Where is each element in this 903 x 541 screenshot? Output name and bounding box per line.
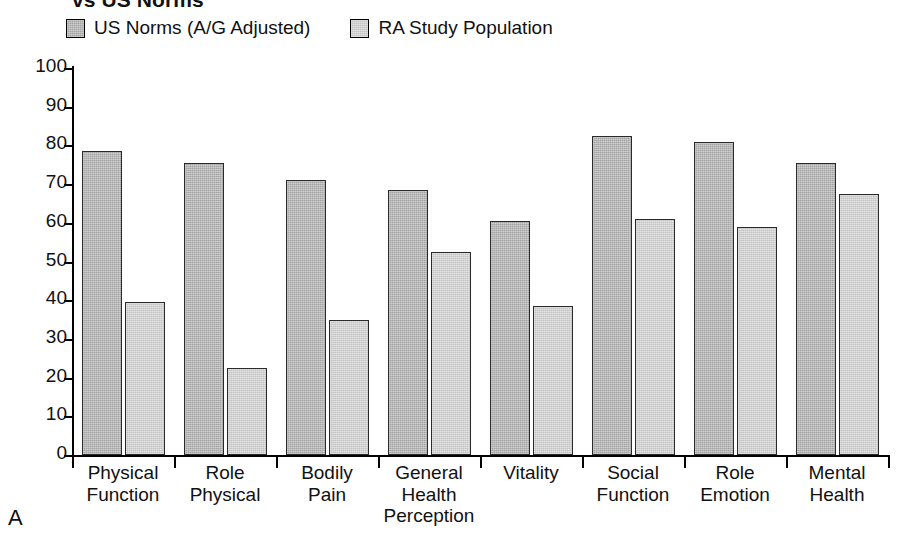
bar (796, 163, 836, 455)
y-tick-label: 60 (46, 211, 67, 230)
legend-item-ra-study: RA Study Population (350, 17, 552, 39)
bar (82, 151, 122, 455)
bar (839, 194, 879, 455)
figure-panel: vs US Norms US Norms (A/G Adjusted) RA S… (0, 0, 903, 541)
bar (125, 302, 165, 455)
y-tick-label: 20 (46, 366, 67, 385)
x-axis-label: Vitality (480, 462, 582, 484)
y-tick-label: 40 (46, 288, 67, 307)
panel-letter: A (8, 505, 23, 531)
y-tick-label: 10 (46, 404, 67, 423)
x-tick-mark (888, 457, 890, 468)
x-axis-label: GeneralHealthPerception (378, 462, 480, 527)
bar-group (82, 68, 165, 455)
bar (694, 142, 734, 455)
bar (737, 227, 777, 455)
y-tick-label: 100 (35, 56, 67, 75)
bar (388, 190, 428, 455)
bar-group (286, 68, 369, 455)
bar (533, 306, 573, 455)
bar (431, 252, 471, 455)
legend-swatch-icon-ra-study (350, 19, 369, 38)
y-tick-label: 0 (56, 443, 67, 462)
bar (329, 320, 369, 455)
legend-swatch-icon-us-norms (66, 19, 85, 38)
x-axis-label: RoleEmotion (684, 462, 786, 505)
y-tick-label: 90 (46, 95, 67, 114)
bar (286, 180, 326, 455)
bar (227, 368, 267, 455)
y-tick-label: 80 (46, 133, 67, 152)
x-axis-label: SocialFunction (582, 462, 684, 505)
legend-label-us-norms: US Norms (A/G Adjusted) (94, 17, 310, 39)
legend-label-ra-study: RA Study Population (378, 17, 552, 39)
x-axis-label: MentalHealth (786, 462, 888, 505)
x-axis-label: RolePhysical (174, 462, 276, 505)
y-axis-line (72, 66, 74, 457)
bar-group (796, 68, 879, 455)
legend-item-us-norms: US Norms (A/G Adjusted) (66, 17, 310, 39)
bar (635, 219, 675, 455)
x-axis-label: PhysicalFunction (72, 462, 174, 505)
bar-group (184, 68, 267, 455)
bar-group (490, 68, 573, 455)
y-tick-label: 30 (46, 327, 67, 346)
bar (592, 136, 632, 455)
chart-legend: US Norms (A/G Adjusted) RA Study Populat… (66, 17, 553, 39)
x-axis-label: BodilyPain (276, 462, 378, 505)
bar-group (592, 68, 675, 455)
bar-group (388, 68, 471, 455)
plot-area: 1009080706050403020100 (72, 68, 888, 455)
bar (490, 221, 530, 455)
bar-group (694, 68, 777, 455)
y-tick-label: 50 (46, 250, 67, 269)
bar (184, 163, 224, 455)
y-tick-label: 70 (46, 172, 67, 191)
chart-title: vs US Norms (72, 0, 204, 12)
